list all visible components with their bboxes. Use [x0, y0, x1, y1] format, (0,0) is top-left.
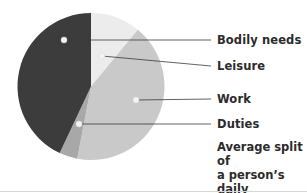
label-work: Work — [217, 92, 251, 106]
dot-bodily-needs — [61, 37, 67, 43]
dot-duties — [76, 121, 82, 127]
label-leisure: Leisure — [217, 59, 265, 73]
pie-slices — [18, 13, 165, 160]
bottom-divider — [0, 191, 307, 192]
chart-caption: Average split of a person’s daily activi… — [217, 140, 307, 193]
caption-line-2: a person’s daily — [217, 168, 307, 193]
caption-line-1: Average split of — [217, 140, 307, 168]
label-duties: Duties — [217, 117, 259, 131]
dot-work — [133, 97, 139, 103]
dot-leisure — [99, 53, 105, 59]
label-bodily-needs: Bodily needs — [217, 33, 301, 47]
